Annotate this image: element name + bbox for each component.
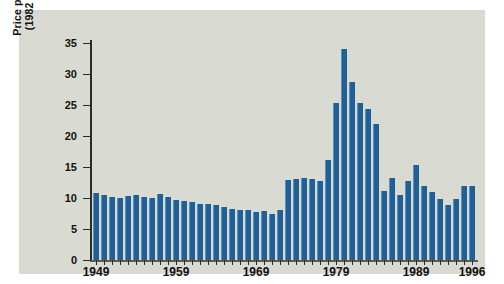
bar-slot (444, 43, 452, 260)
x-axis-tick-label: 1989 (403, 265, 430, 279)
bar[interactable] (285, 180, 291, 260)
bar[interactable] (157, 194, 163, 260)
bar[interactable] (461, 186, 467, 260)
bar[interactable] (221, 207, 227, 260)
y-axis-tick (83, 229, 91, 230)
bar[interactable] (189, 202, 195, 260)
y-axis-tick-label: 10 (51, 193, 77, 203)
bar[interactable] (293, 179, 299, 260)
x-axis-tick (376, 260, 377, 265)
x-axis-tick-label: 1949 (83, 265, 110, 279)
bar-slot (452, 43, 460, 260)
bar[interactable] (181, 201, 187, 260)
bar[interactable] (165, 197, 171, 260)
bar[interactable] (437, 199, 443, 260)
bar[interactable] (101, 195, 107, 260)
plot-area (92, 43, 476, 260)
bar[interactable] (261, 211, 267, 260)
bar[interactable] (365, 109, 371, 260)
y-axis-tick (83, 105, 91, 106)
bar-slot (196, 43, 204, 260)
y-axis-tick-label: 35 (51, 38, 77, 48)
bar[interactable] (429, 192, 435, 260)
bar[interactable] (333, 103, 339, 260)
x-axis-tick (448, 260, 449, 265)
bar-slot (460, 43, 468, 260)
bar[interactable] (389, 178, 395, 260)
bar-slot (220, 43, 228, 260)
bar-slot (428, 43, 436, 260)
bar-slot (116, 43, 124, 260)
y-axis-tick-label: 15 (51, 162, 77, 172)
bar[interactable] (341, 49, 347, 260)
y-axis-title-line2: (1982 dollars) (23, 0, 35, 70)
bar-slot (348, 43, 356, 260)
bar[interactable] (405, 181, 411, 260)
y-axis-tick-label: 30 (51, 69, 77, 79)
bar-slot (172, 43, 180, 260)
x-axis-tick (304, 260, 305, 265)
x-axis-tick (112, 260, 113, 265)
y-axis-tick (83, 167, 91, 168)
bar[interactable] (173, 200, 179, 260)
bar-slot (324, 43, 332, 260)
bar[interactable] (149, 198, 155, 260)
bar[interactable] (253, 212, 259, 260)
bar-slot (388, 43, 396, 260)
bar-slot (92, 43, 100, 260)
bar[interactable] (349, 82, 355, 260)
bar[interactable] (133, 195, 139, 260)
bar[interactable] (237, 210, 243, 260)
x-axis-tick (224, 260, 225, 265)
bar-slot (156, 43, 164, 260)
y-axis-tick-label: 20 (51, 131, 77, 141)
bar[interactable] (357, 103, 363, 260)
bar[interactable] (269, 214, 275, 261)
x-axis-tick (280, 260, 281, 265)
x-axis-tick (240, 260, 241, 265)
bar[interactable] (445, 205, 451, 260)
bar[interactable] (421, 186, 427, 260)
bar[interactable] (453, 199, 459, 260)
bar[interactable] (413, 165, 419, 260)
x-axis-tick-label: 1979 (323, 265, 350, 279)
y-axis-tick (83, 74, 91, 75)
x-axis-tick (456, 260, 457, 265)
bar[interactable] (93, 193, 99, 260)
bar-slot (132, 43, 140, 260)
x-axis-line (90, 260, 478, 262)
bar[interactable] (309, 179, 315, 260)
bar-slot (148, 43, 156, 260)
x-axis-tick (384, 260, 385, 265)
bar[interactable] (197, 204, 203, 260)
x-axis-tick (272, 260, 273, 265)
bar[interactable] (373, 124, 379, 260)
bar[interactable] (397, 195, 403, 260)
x-axis-tick (440, 260, 441, 265)
bar[interactable] (277, 210, 283, 260)
bar-slot (284, 43, 292, 260)
bar[interactable] (381, 191, 387, 260)
bar[interactable] (205, 204, 211, 260)
bar-slot (420, 43, 428, 260)
bar[interactable] (245, 210, 251, 260)
x-axis-tick (128, 260, 129, 265)
bar[interactable] (317, 181, 323, 260)
bar-slot (404, 43, 412, 260)
y-axis-tick-label: 5 (51, 224, 77, 234)
bar[interactable] (469, 186, 475, 260)
bar-series (92, 43, 476, 260)
bar[interactable] (117, 198, 123, 260)
x-axis-tick (144, 260, 145, 265)
bar[interactable] (301, 178, 307, 260)
bar[interactable] (125, 196, 131, 260)
x-axis-tick (208, 260, 209, 265)
bar-slot (300, 43, 308, 260)
bar[interactable] (109, 197, 115, 260)
bar-slot (204, 43, 212, 260)
bar[interactable] (141, 197, 147, 260)
bar[interactable] (213, 205, 219, 260)
bar[interactable] (325, 160, 331, 260)
bar-slot (140, 43, 148, 260)
bar[interactable] (229, 209, 235, 260)
